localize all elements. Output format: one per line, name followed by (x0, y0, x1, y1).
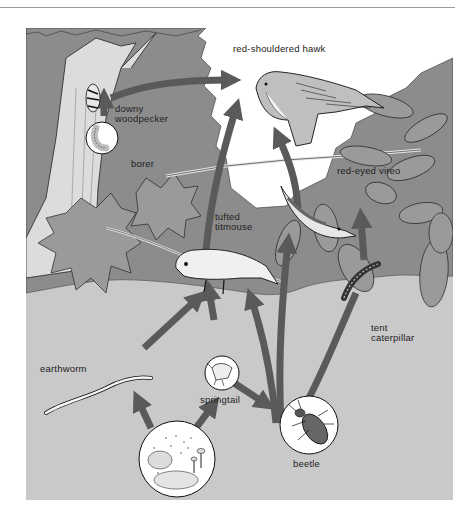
scene (26, 28, 453, 500)
soil-circle (139, 421, 215, 497)
food-web-illustration: red-shouldered hawk downy woodpecker bor… (26, 28, 453, 500)
arrow-springtail-to-titmouse (209, 290, 214, 320)
label-red-shouldered-hawk: red-shouldered hawk (233, 44, 326, 54)
springtail-circle (205, 356, 239, 390)
woodpecker-illustration (86, 84, 100, 112)
label-tent-caterpillar-line2: caterpillar (371, 333, 414, 343)
label-earthworm: earthworm (40, 364, 87, 374)
top-rule (0, 7, 455, 8)
label-red-eyed-vireo: red-eyed vireo (337, 166, 401, 176)
label-beetle: beetle (293, 459, 320, 469)
label-borer: borer (131, 159, 154, 169)
beetle-circle (280, 396, 338, 454)
label-springtail: springtail (200, 395, 240, 405)
label-tufted-titmouse-line2: titmouse (215, 222, 253, 232)
label-downy-woodpecker-line2: woodpecker (115, 114, 168, 124)
borer-circle (86, 122, 118, 154)
arrow-caterpillar-to-vireo (361, 218, 364, 260)
